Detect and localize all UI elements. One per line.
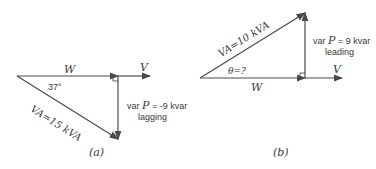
v-label-b: V bbox=[333, 64, 341, 75]
var-value: = 9 kvar bbox=[335, 36, 370, 46]
var-type-b: leading bbox=[325, 48, 354, 57]
angle-label-b: θ=? bbox=[228, 67, 246, 76]
caption-a: (a) bbox=[89, 147, 104, 158]
w-label-b: W bbox=[251, 82, 262, 93]
caption-b: (b) bbox=[273, 147, 289, 158]
w-label-a: W bbox=[64, 64, 75, 75]
var-prefix: var bbox=[127, 101, 142, 111]
angle-label-a: 37° bbox=[48, 83, 62, 92]
power-triangle-figure: W V 37° VA=15 kVA var P = -9 kvar laggin… bbox=[0, 0, 376, 169]
var-label-b: var P = 9 kvar bbox=[313, 35, 370, 46]
var-type-a: lagging bbox=[138, 113, 167, 122]
var-value: = -9 kvar bbox=[149, 101, 187, 111]
var-label-a: var P = -9 kvar bbox=[127, 100, 187, 111]
v-label-a: V bbox=[140, 62, 148, 73]
var-prefix: var bbox=[313, 36, 328, 46]
